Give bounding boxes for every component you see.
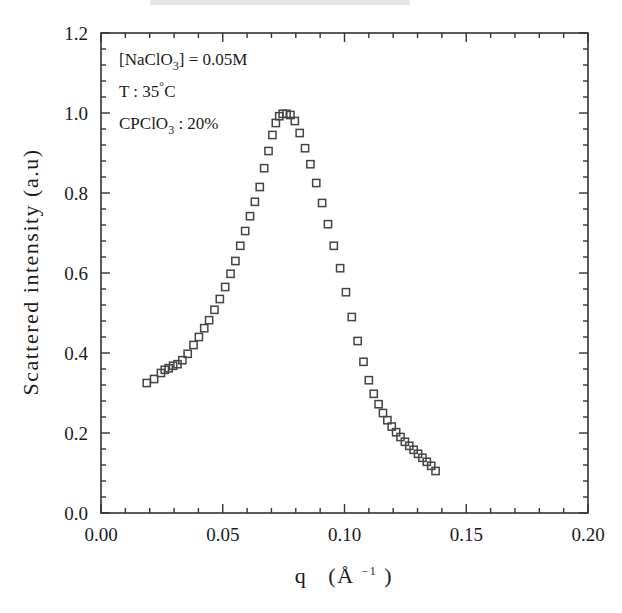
annotation-concentration: [NaClO3] = 0.05M [119,50,247,73]
data-point-marker [337,265,344,272]
data-point-marker [307,161,314,168]
svg-text:Scattered intensity (a.u): Scattered intensity (a.u) [18,148,43,395]
data-point-marker [313,179,320,186]
data-point-marker [379,409,386,416]
axis-ticks [101,33,588,513]
data-point-marker [397,433,404,440]
data-point-markers [143,110,439,474]
scatter-plot: 0.000.050.100.150.20 0.00.20.40.60.81.01… [0,0,622,613]
plot-frame [101,33,588,513]
data-point-marker [365,377,372,384]
data-point-marker [432,467,439,474]
data-point-marker [330,242,337,249]
data-point-marker [143,379,150,386]
y-tick-labels: 0.00.20.40.60.81.01.2 [64,23,88,524]
x-tick-label: 0.10 [328,524,361,545]
data-point-marker [251,198,258,205]
x-axis-title-symbol: q [295,563,308,588]
annotation-text: CPClO [119,114,168,133]
y-tick-label: 0.2 [64,423,88,444]
data-point-marker [296,129,303,136]
data-point-marker [242,227,249,234]
x-axis-unit-exponent: −1 [362,564,378,578]
data-point-marker [227,270,234,277]
y-tick-label: 1.0 [64,103,88,124]
data-point-marker [375,401,382,408]
x-axis-title: q (Å −1 ) [295,555,393,588]
data-point-marker [324,221,331,228]
svg-text:q (Å −1: q (Å −1 ) [295,555,393,588]
data-point-marker [237,242,244,249]
data-point-marker [265,147,272,154]
data-point-marker [370,390,377,397]
annotation-text: [NaClO [119,50,173,69]
y-axis-title: Scattered intensity (a.u) [18,148,43,395]
data-point-marker [319,199,326,206]
axis-frame [101,33,588,513]
y-tick-label: 0.0 [64,503,88,524]
x-tick-label: 0.15 [450,524,483,545]
annotation-tail: ] = 0.05M [179,50,248,69]
data-point-marker [246,213,253,220]
data-point-marker [206,317,213,324]
x-tick-label: 0.00 [84,524,117,545]
data-point-marker [348,313,355,320]
plot-annotations: [NaClO3] = 0.05MT : 35°CCPClO3 : 20% [119,50,247,137]
data-point-marker [190,341,197,348]
data-point-marker [360,358,367,365]
annotation-text: T : 35 [119,82,159,101]
data-point-marker [195,333,202,340]
data-point-marker [211,306,218,313]
data-point-marker [301,145,308,152]
y-tick-label: 0.8 [64,183,88,204]
data-point-marker [222,283,229,290]
data-point-marker [201,325,208,332]
x-tick-label: 0.20 [571,524,604,545]
scan-artifact [150,0,410,5]
data-point-marker [269,131,276,138]
data-point-marker [261,165,268,172]
y-tick-label: 1.2 [64,23,88,44]
data-point-marker [256,183,263,190]
annotation-tail: C [164,82,175,101]
y-tick-label: 0.6 [64,263,88,284]
annotation-surfactant: CPClO3 : 20% [119,114,219,137]
data-point-marker [232,257,239,264]
figure-container: 0.000.050.100.150.20 0.00.20.40.60.81.01… [0,0,622,613]
x-tick-label: 0.05 [206,524,239,545]
data-point-marker [216,295,223,302]
x-tick-labels: 0.000.050.100.150.20 [84,524,604,545]
annotation-temperature: T : 35°C [119,79,175,101]
x-axis-unit-close: ) [384,563,393,588]
data-point-marker [354,337,361,344]
y-tick-label: 0.4 [64,343,88,364]
x-axis-unit-open: (Å [328,563,354,588]
data-point-marker [342,289,349,296]
annotation-tail: : 20% [174,114,218,133]
